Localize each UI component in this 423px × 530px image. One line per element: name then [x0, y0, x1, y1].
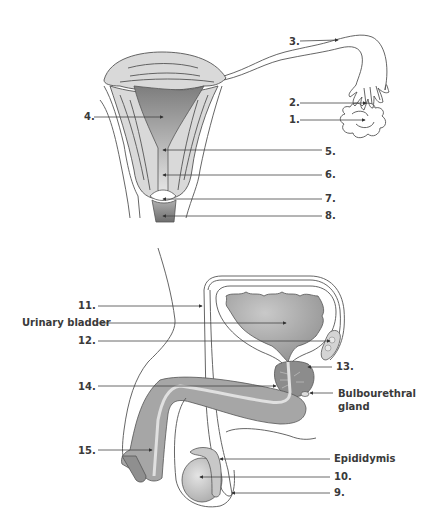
- label-10: 10.: [334, 471, 352, 482]
- female-reproductive-diagram: [100, 35, 389, 222]
- label-4: 4.: [84, 111, 95, 122]
- label-3: 3.: [289, 36, 300, 47]
- label-13: 13.: [336, 361, 354, 372]
- label-9: 9.: [334, 487, 345, 498]
- label-2: 2.: [289, 97, 300, 108]
- ovary: [340, 103, 385, 138]
- fimbriae: [349, 85, 389, 110]
- label-epididymis: Epididymis: [334, 453, 396, 464]
- vagina: [152, 200, 176, 222]
- male-reproductive-diagram: [121, 248, 344, 507]
- label-8: 8.: [325, 210, 336, 221]
- label-12: 12.: [78, 335, 96, 346]
- label-1: 1.: [289, 114, 300, 125]
- label-bulbourethral-gland-line2: gland: [338, 401, 370, 412]
- anatomy-diagram: 3. 2. 1. 4. 5. 6. 7. 8. 11. Urinary blad…: [0, 0, 423, 530]
- label-urinary-bladder: Urinary bladder: [22, 317, 111, 328]
- label-5: 5.: [325, 146, 336, 157]
- label-bulbourethral-line1: Bulbourethral: [338, 388, 416, 399]
- label-14: 14.: [78, 381, 96, 392]
- label-6: 6.: [325, 169, 336, 180]
- label-15: 15.: [78, 445, 96, 456]
- fallopian-tube: [224, 35, 387, 90]
- label-11: 11.: [78, 300, 96, 311]
- bulbourethral-gland-shape: [301, 392, 309, 397]
- uterus-fundus: [104, 52, 226, 91]
- label-7: 7.: [325, 193, 336, 204]
- label-bulbourethral-gland: Bulbourethral: [338, 388, 416, 399]
